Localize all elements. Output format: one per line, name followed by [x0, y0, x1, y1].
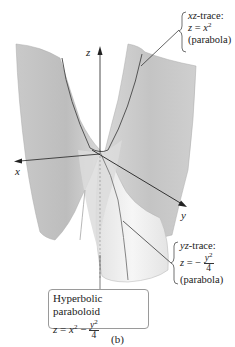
- xz-trace-brace: [179, 12, 186, 52]
- yz-trace-annotation: yz-trace: z = − y2 4 (parabola): [180, 240, 223, 286]
- figure-caption: (b): [0, 333, 235, 345]
- yz-trace-fraction: y2 4: [204, 254, 214, 273]
- yz-trace-equation: z = − y2 4: [180, 252, 223, 274]
- yz-trace-brace: [171, 242, 178, 284]
- z-axis-label: z: [86, 46, 90, 58]
- x-axis-arrowhead: [14, 159, 22, 164]
- yz-trace-title: yz-trace:: [180, 240, 223, 252]
- x-axis-label: x: [15, 165, 20, 177]
- yz-trace-type: (parabola): [180, 274, 223, 286]
- surface-name: Hyperbolic paraboloid: [53, 292, 144, 318]
- xz-trace-type: (parabola): [188, 34, 231, 46]
- xz-trace-equation: z = x2: [188, 22, 231, 34]
- y-axis-label: y: [181, 209, 186, 221]
- xz-trace-annotation: xz-trace: z = x2 (parabola): [188, 10, 231, 46]
- surface-label-box: Hyperbolic paraboloid z = x2 − y2 4: [48, 289, 149, 329]
- z-axis-arrowhead: [98, 46, 103, 55]
